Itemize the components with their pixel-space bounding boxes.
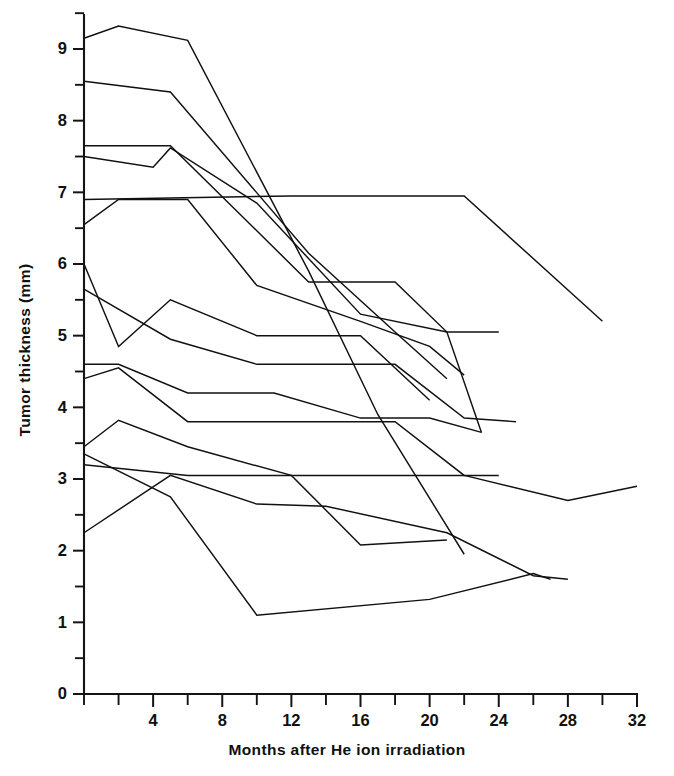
series-line-patient-4 xyxy=(84,148,499,332)
series-line-patient-5 xyxy=(84,196,602,321)
x-tick-label-4: 4 xyxy=(149,711,159,729)
series-line-patient-2 xyxy=(84,81,447,378)
x-tick-label-16: 16 xyxy=(351,711,369,729)
series-line-patient-13 xyxy=(84,475,568,579)
y-tick-label-3: 3 xyxy=(58,469,67,487)
y-tick-label-7: 7 xyxy=(58,183,67,201)
y-tick-label-4: 4 xyxy=(58,398,68,416)
series-line-patient-8 xyxy=(84,289,516,422)
x-tick-label-8: 8 xyxy=(218,711,227,729)
y-tick-label-2: 2 xyxy=(58,541,67,559)
y-tick-label-5: 5 xyxy=(58,326,67,344)
x-tick-label-32: 32 xyxy=(628,711,646,729)
x-tick-label-24: 24 xyxy=(490,711,509,729)
line-chart-canvas: 012345678948121620242832 Months after He… xyxy=(0,0,674,776)
series-line-patient-6 xyxy=(84,200,464,376)
series-layer xyxy=(84,26,637,615)
axes-layer xyxy=(73,13,637,707)
axis-labels-layer: 012345678948121620242832 xyxy=(58,39,646,729)
y-tick-label-0: 0 xyxy=(58,684,67,702)
series-line-patient-3 xyxy=(84,146,481,433)
y-tick-label-1: 1 xyxy=(58,613,67,631)
series-line-patient-14 xyxy=(84,454,551,615)
axis-spines xyxy=(84,15,637,694)
series-line-patient-10 xyxy=(84,368,499,476)
x-tick-label-28: 28 xyxy=(559,711,577,729)
y-tick-label-6: 6 xyxy=(58,254,67,272)
y-tick-label-9: 9 xyxy=(58,39,67,57)
y-axis-title: Tumor thickness (mm) xyxy=(16,263,33,436)
y-tick-label-8: 8 xyxy=(58,111,67,129)
x-axis-title: Months after He ion irradiation xyxy=(228,741,465,758)
x-tick-label-12: 12 xyxy=(282,711,300,729)
chart-figure: 012345678948121620242832 Months after He… xyxy=(0,0,674,776)
x-tick-label-20: 20 xyxy=(420,711,438,729)
